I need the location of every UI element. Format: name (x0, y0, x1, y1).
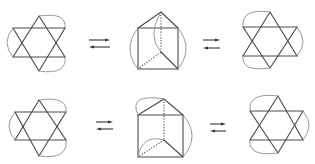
down-triangle (243, 27, 297, 68)
fold-arc (303, 111, 309, 140)
fold-arc (130, 28, 138, 69)
row-top-equilibrium-arrows-2 (203, 38, 220, 49)
row-bottom-equilibrium-arrows-2 (210, 122, 226, 132)
fold-arc (136, 98, 164, 115)
up-triangle (243, 12, 297, 56)
prism-folding-diagram (0, 0, 315, 164)
bottom-edge (164, 140, 183, 157)
row-bottom-left-hexagram-net (9, 99, 66, 156)
down-triangle (250, 111, 303, 153)
top-edges (138, 99, 183, 115)
right-arrowhead-icon (105, 38, 110, 41)
up-triangle (13, 16, 65, 57)
fold-arc (9, 112, 15, 140)
top-edges (138, 12, 178, 28)
up-triangle (250, 96, 303, 140)
row-top-equilibrium-arrows-1 (89, 38, 110, 48)
left-arrowhead-icon (210, 129, 215, 132)
down-triangle (15, 112, 66, 156)
bottom-edge (161, 52, 178, 69)
right-arrowhead-icon (221, 122, 226, 125)
left-arrowhead-icon (96, 127, 101, 130)
fold-arc (183, 115, 192, 157)
row-bottom-right-hexagram-net (250, 95, 309, 153)
left-arrowhead-icon (89, 45, 94, 48)
down-triangle (13, 28, 65, 71)
right-arrowhead-icon (108, 120, 113, 123)
fold-arc (7, 28, 13, 57)
left-arrowhead-icon (203, 46, 208, 49)
hidden-edge (138, 52, 161, 69)
up-triangle (15, 100, 66, 140)
row-top-triangular-prism (130, 12, 186, 69)
row-bottom-triangular-prism (136, 98, 192, 157)
row-bottom-equilibrium-arrows-1 (96, 120, 113, 130)
row-top-right-hexagram-net (243, 11, 303, 68)
fold-arc (297, 27, 303, 56)
row-top-left-hexagram-net (7, 15, 65, 72)
right-arrowhead-icon (215, 38, 220, 41)
hidden-edge (138, 140, 164, 157)
fold-arc (178, 28, 186, 69)
fold-arc (154, 14, 161, 52)
